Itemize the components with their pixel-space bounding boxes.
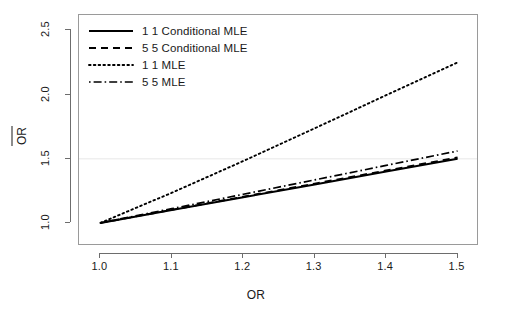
y-axis-title: OR	[8, 118, 34, 154]
legend-line-swatch	[88, 24, 134, 38]
legend-item-label: 5 5 Conditional MLE	[142, 42, 247, 54]
x-axis-tick	[457, 253, 458, 258]
legend-item: 5 5 MLE	[88, 73, 298, 90]
x-axis-tick	[314, 253, 315, 258]
legend-line-swatch	[88, 41, 134, 55]
y-axis-spine	[70, 29, 71, 222]
x-axis-tick-label: 1.0	[79, 260, 119, 272]
x-axis-title: OR	[0, 288, 512, 302]
legend-item: 1 1 MLE	[88, 56, 298, 73]
chart-figure: 1.01.52.02.5 1.01.11.21.31.41.5 OR OR 1 …	[0, 0, 512, 317]
y-axis-tick	[65, 158, 70, 159]
x-axis-tick-label: 1.2	[222, 260, 262, 272]
x-axis-tick-label: 1.3	[294, 260, 334, 272]
x-axis-tick	[385, 253, 386, 258]
x-axis-tick-label: 1.4	[365, 260, 405, 272]
legend-item-label: 1 1 Conditional MLE	[142, 25, 247, 37]
legend-item: 1 1 Conditional MLE	[88, 22, 298, 39]
x-axis-tick-label: 1.1	[151, 260, 191, 272]
series-line-4	[100, 151, 457, 223]
y-axis-title-text: OR	[14, 127, 29, 145]
x-axis-spine	[99, 253, 456, 254]
x-axis-tick	[171, 253, 172, 258]
x-axis-title-text: OR	[247, 288, 266, 302]
y-axis-tick-label: 1.5	[38, 141, 52, 175]
legend-item: 5 5 Conditional MLE	[88, 39, 298, 56]
y-axis-tick-label: 2.0	[38, 77, 52, 111]
legend-line-swatch	[88, 75, 134, 89]
y-axis-tick	[65, 94, 70, 95]
x-axis-tick-label: 1.5	[437, 260, 477, 272]
legend-line-swatch	[88, 58, 134, 72]
y-axis-tick-label: 2.5	[38, 12, 52, 46]
y-axis-tick	[65, 222, 70, 223]
legend-item-label: 5 5 MLE	[142, 76, 186, 88]
y-axis-tick	[65, 29, 70, 30]
legend-item-label: 1 1 MLE	[142, 59, 186, 71]
x-axis-tick	[99, 253, 100, 258]
x-axis-tick	[242, 253, 243, 258]
y-axis-tick-label: 1.0	[38, 205, 52, 239]
chart-legend: 1 1 Conditional MLE5 5 Conditional MLE1 …	[88, 20, 298, 90]
